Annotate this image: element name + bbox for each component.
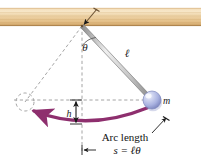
height-label: h (67, 108, 72, 119)
support-beam-group (0, 8, 201, 26)
arc-length-title: Arc length (102, 131, 149, 143)
pendulum-rod-edge-upper (81, 27, 149, 99)
mass-label: m (163, 95, 170, 106)
length-label: ℓ (125, 47, 130, 59)
pendulum-rod (82, 26, 150, 98)
bob-specular-highlight (145, 94, 151, 99)
support-beam (0, 8, 201, 26)
swing-arc-group (34, 108, 147, 121)
theta-label: θ (82, 41, 88, 53)
pendulum-bob-group: m (143, 91, 170, 111)
arc-annotation-leader (152, 118, 166, 133)
pendulum-rod-group (81, 25, 152, 100)
pivot-point (81, 25, 84, 28)
pendulum-bob (143, 91, 161, 109)
swing-arc (34, 108, 147, 121)
diagonal-to-phantom-line (25, 26, 82, 102)
arc-length-equation: s = ℓθ (113, 144, 141, 156)
pendulum-figure: θ ℓ m h Arc length s = ℓθ (0, 0, 201, 161)
pendulum-rod-edge-lower (83, 25, 151, 97)
length-label-group: ℓ (125, 47, 130, 59)
arc-length-annotation-group: Arc length s = ℓθ (82, 117, 170, 157)
pendulum-diagram-canvas: θ ℓ m h Arc length s = ℓθ (0, 0, 201, 161)
